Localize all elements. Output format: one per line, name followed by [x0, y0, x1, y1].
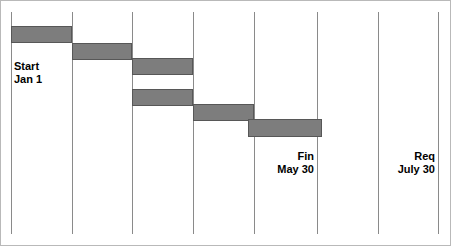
gantt-bar-task-4[interactable]	[132, 89, 193, 106]
required-milestone-label: Req July 30	[365, 150, 435, 176]
plot-area: Start Jan 1 Fin May 30 Req July 30	[0, 0, 451, 246]
gantt-chart: Start Jan 1 Fin May 30 Req July 30	[0, 0, 451, 246]
gridline-1	[11, 12, 12, 234]
start-milestone-line2: Jan 1	[14, 73, 42, 86]
start-milestone-label: Start Jan 1	[14, 60, 42, 86]
gantt-bar-task-2[interactable]	[72, 43, 132, 60]
finish-milestone-line2: May 30	[244, 163, 314, 176]
finish-milestone-line1: Fin	[244, 150, 314, 163]
gantt-bar-task-6[interactable]	[248, 119, 322, 137]
gridline-4	[193, 12, 194, 234]
gantt-bar-task-3[interactable]	[132, 58, 193, 75]
start-milestone-line1: Start	[14, 60, 42, 73]
finish-milestone-label: Fin May 30	[244, 150, 314, 176]
gantt-bar-task-1[interactable]	[11, 26, 72, 43]
gantt-bar-task-5[interactable]	[193, 104, 254, 121]
required-milestone-line2: July 30	[365, 163, 435, 176]
gridline-8	[438, 12, 439, 234]
required-milestone-line1: Req	[365, 150, 435, 163]
gridline-3	[132, 12, 133, 234]
gridline-7	[378, 12, 379, 234]
